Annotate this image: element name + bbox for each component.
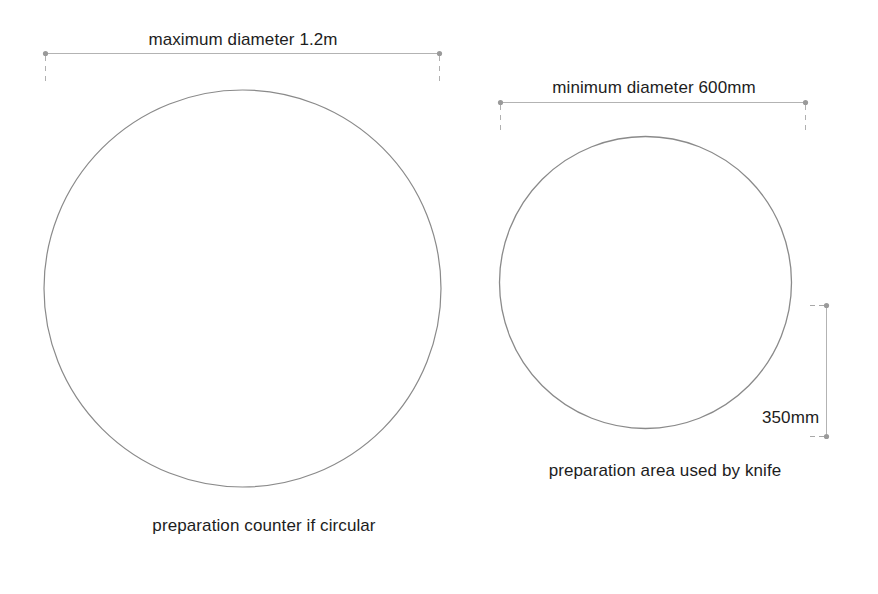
dimension-endpoint-right	[437, 51, 442, 56]
dimension-endpoint-right	[803, 100, 808, 105]
figure-preparation-area	[500, 137, 792, 429]
dimension-endpoint-left	[498, 100, 503, 105]
figure-preparation-counter	[44, 90, 441, 487]
caption-preparation-counter-if-circular: preparation counter if circular	[152, 516, 375, 536]
dimension-min-diameter	[498, 100, 808, 130]
dimension-endpoint-left	[43, 51, 48, 56]
label-maximum-diameter: maximum diameter 1.2m	[148, 30, 337, 50]
dimension-endpoint-bottom	[824, 434, 829, 439]
label-minimum-diameter: minimum diameter 600mm	[552, 78, 755, 98]
preparation-area-circle	[500, 137, 792, 429]
caption-preparation-area-used-by-knife: preparation area used by knife	[549, 461, 782, 481]
dimension-max-diameter	[43, 51, 442, 83]
preparation-counter-circle	[44, 90, 441, 487]
diagram-canvas: maximum diameter 1.2m minimum diameter 6…	[0, 0, 878, 594]
dimension-endpoint-top	[824, 303, 829, 308]
label-depth-350mm: 350mm	[762, 408, 819, 428]
